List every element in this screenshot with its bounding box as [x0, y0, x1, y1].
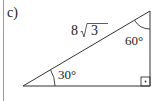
triangle-diagram	[0, 0, 158, 101]
right-angle-dot	[145, 81, 147, 83]
angle-label-60: 60°	[125, 33, 143, 49]
hypotenuse-radicand: 3	[91, 23, 98, 39]
hypotenuse-coefficient: 8	[71, 23, 78, 39]
angle-arc-30	[51, 70, 55, 86]
angle-label-30: 30°	[58, 67, 76, 83]
angle-arc-60	[135, 20, 151, 29]
